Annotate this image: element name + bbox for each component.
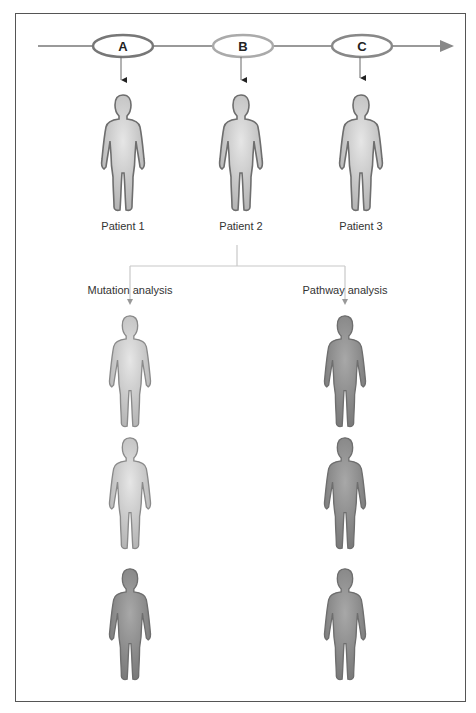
patient-2-label: Patient 2: [219, 220, 262, 232]
mutation-analysis-label: Mutation analysis: [88, 284, 173, 296]
patient-3-label: Patient 3: [339, 220, 382, 232]
analysis-branches: [127, 245, 348, 305]
pathway-analysis-label: Pathway analysis: [303, 284, 388, 296]
pathway-result-2: [324, 438, 365, 549]
pathway-analysis-figures: [324, 316, 365, 680]
timepoint-a-label: A: [118, 39, 127, 54]
mutation-result-2: [109, 438, 150, 549]
pathway-result-3: [324, 569, 365, 680]
pathway-result-1: [324, 316, 365, 427]
diagram-canvas: [0, 0, 476, 713]
patient-figures: [102, 95, 383, 210]
patient-1-label: Patient 1: [101, 220, 144, 232]
timepoint-c-label: C: [357, 39, 366, 54]
mutation-result-3: [109, 569, 150, 680]
timepoint-b-label: B: [238, 39, 247, 54]
mutation-result-1: [109, 316, 150, 427]
mutation-analysis-figures: [109, 316, 150, 680]
